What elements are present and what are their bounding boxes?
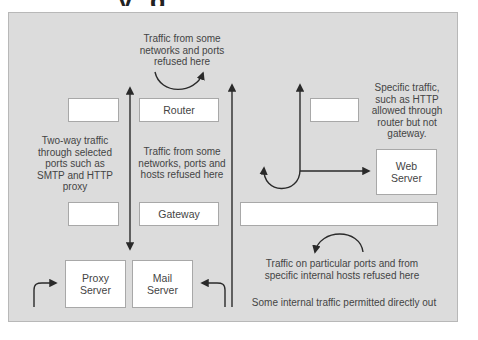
proxy-server-box: Proxy Server <box>65 260 126 308</box>
proxy-entry-arrow <box>34 283 56 307</box>
specific-traffic-note: Specific traffic, such as HTTP allowed t… <box>368 82 446 140</box>
mail-entry-arrow <box>202 283 225 307</box>
router-box: Router <box>139 98 219 122</box>
internal-out-note: Some internal traffic permitted directly… <box>244 297 444 309</box>
two-way-note: Two-way traffic through selected ports s… <box>30 135 120 193</box>
proxy-server-label: Proxy Server <box>80 272 111 296</box>
gateway-refusal-arrow <box>315 234 363 252</box>
mail-server-label: Mail Server <box>147 272 178 296</box>
blank-top-left-box <box>68 98 119 122</box>
blank-mid-left-box <box>68 202 119 226</box>
gateway-refusal-note: Traffic from some networks, ports and ho… <box>136 146 228 181</box>
web-server-label: Web Server <box>391 160 422 184</box>
gateway-label: Gateway <box>158 208 199 220</box>
web-server-box: Web Server <box>376 149 437 195</box>
router-refusal-arrow <box>155 72 203 89</box>
blank-mid-wide-box <box>240 202 438 226</box>
router-refusal-note: Traffic from some networks and ports ref… <box>136 33 228 68</box>
router-label: Router <box>163 104 195 116</box>
mail-server-box: Mail Server <box>132 260 193 308</box>
particular-ports-note: Traffic on particular ports and from spe… <box>262 258 422 281</box>
blank-top-right-box <box>310 98 359 122</box>
gateway-box: Gateway <box>139 202 219 226</box>
specific-traffic-line <box>264 85 300 189</box>
